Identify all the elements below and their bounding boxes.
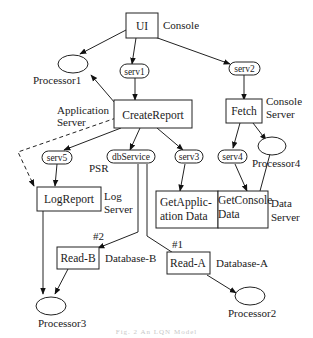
label-psr: PSR bbox=[89, 162, 109, 174]
svg-text:serv3: serv3 bbox=[179, 152, 200, 162]
node-data-server: GetApplic- ation Data GetConsole Data bbox=[156, 191, 272, 228]
node-ui: UI bbox=[126, 13, 158, 38]
edge-ui-serv1 bbox=[132, 38, 136, 64]
node-readb: Read-B bbox=[57, 247, 99, 269]
service-serv3: serv3 bbox=[175, 150, 203, 163]
lqn-diagram: UI CreateReport Fetch LogReport GetAppli… bbox=[0, 0, 313, 338]
node-reada: Read-A bbox=[167, 252, 210, 274]
getapplication-line1: GetApplic- bbox=[160, 196, 212, 209]
label-console: Console bbox=[163, 19, 199, 31]
processor-4: Processor4 bbox=[252, 137, 301, 169]
processor-2: Processor2 bbox=[228, 287, 276, 319]
node-fetch: Fetch bbox=[226, 99, 262, 123]
edge-ui-serv2 bbox=[152, 36, 230, 64]
svg-text:Processor4: Processor4 bbox=[252, 157, 301, 169]
svg-text:serv5: serv5 bbox=[47, 153, 68, 163]
svg-text:serv4: serv4 bbox=[222, 152, 243, 162]
service-serv1: serv1 bbox=[120, 64, 149, 78]
service-serv2: serv2 bbox=[229, 62, 260, 75]
label-console-server-2: Server bbox=[266, 108, 295, 120]
processor-3: Processor3 bbox=[36, 297, 87, 329]
label-hash1: #1 bbox=[172, 238, 183, 250]
getconsole-line2: Data bbox=[218, 208, 240, 220]
svg-text:Processor1: Processor1 bbox=[33, 74, 81, 86]
service-dbservice: dbService bbox=[107, 150, 155, 163]
label-log-server-1: Log bbox=[104, 190, 122, 202]
node-createreport: CreateReport bbox=[114, 100, 192, 128]
edge-reada-processor2 bbox=[207, 275, 236, 293]
edge-createreport-serv5 bbox=[64, 128, 121, 150]
label-hash2: #2 bbox=[93, 230, 104, 242]
node-logreport: LogReport bbox=[37, 187, 101, 211]
svg-text:Processor2: Processor2 bbox=[228, 307, 276, 319]
svg-text:UI: UI bbox=[136, 20, 148, 32]
label-data-server-1: Data bbox=[271, 197, 292, 209]
label-database-b: Database-B bbox=[105, 252, 156, 264]
edge-fetch-serv4 bbox=[233, 123, 240, 148]
label-data-server-2: Server bbox=[271, 211, 300, 223]
label-console-server-1: Console bbox=[266, 95, 302, 107]
service-serv4: serv4 bbox=[218, 150, 247, 163]
svg-text:Read-B: Read-B bbox=[60, 252, 95, 264]
edge-fetch-processor4 bbox=[253, 123, 266, 140]
label-log-server-2: Server bbox=[104, 203, 133, 215]
edge-serv5-logreport bbox=[55, 164, 57, 186]
edge-readb-processor3 bbox=[55, 269, 68, 294]
figure-caption: Fig. 2 An LQN Model bbox=[0, 328, 313, 338]
edge-createreport-processor1 bbox=[91, 75, 115, 103]
getapplication-line2: ation Data bbox=[160, 210, 208, 222]
label-application-server-2: Server bbox=[57, 116, 86, 128]
edge-createreport-serv3 bbox=[157, 128, 183, 150]
edge-ui-processor1 bbox=[80, 30, 126, 54]
svg-text:LogReport: LogReport bbox=[44, 193, 95, 206]
svg-text:serv2: serv2 bbox=[234, 64, 255, 74]
edge-createreport-dbservice bbox=[130, 128, 140, 150]
label-database-a: Database-A bbox=[216, 257, 268, 269]
svg-text:CreateReport: CreateReport bbox=[122, 109, 184, 122]
edge-serv4-getconsole bbox=[235, 164, 247, 191]
processor-1: Processor1 bbox=[33, 55, 88, 86]
label-application-server-1: Application bbox=[57, 104, 109, 116]
getconsole-line1: GetConsole bbox=[218, 194, 272, 206]
svg-text:dbService: dbService bbox=[112, 152, 150, 162]
svg-text:Fetch: Fetch bbox=[231, 105, 257, 117]
svg-text:serv1: serv1 bbox=[124, 67, 145, 77]
svg-text:Read-A: Read-A bbox=[170, 257, 206, 269]
edge-serv3-getapplication bbox=[180, 164, 185, 191]
service-serv5: serv5 bbox=[42, 151, 72, 164]
